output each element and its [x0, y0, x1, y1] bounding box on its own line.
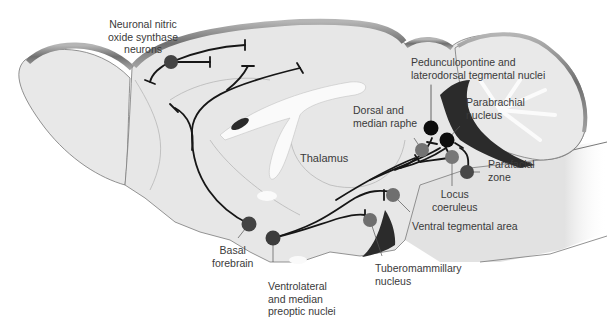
node-locus-coeruleus: [445, 150, 459, 164]
label-parabrachial: Parabrachial nucleus: [466, 96, 525, 121]
label-locus-coeruleus: Locus coeruleus: [432, 188, 478, 213]
label-basal-forebrain: Basal forebrain: [212, 244, 253, 269]
node-vlpo: [266, 231, 281, 246]
white-spot: [257, 191, 277, 201]
node-parafacial: [460, 165, 474, 179]
sleep-wake-circuit-diagram: Neuronal nitric oxide synthase neurons T…: [0, 0, 607, 334]
node-tuberomammillary: [363, 213, 377, 227]
node-raphe: [415, 143, 429, 157]
label-nnos: Neuronal nitric oxide synthase neurons: [108, 18, 178, 56]
node-nnos: [164, 55, 178, 69]
node-ppt-ldt: [424, 121, 439, 136]
olfactory-bulb: [19, 49, 130, 185]
label-tuberomammillary: Tuberomammillary nucleus: [375, 262, 462, 287]
node-parabrachial: [440, 133, 455, 148]
label-vlpo: Ventrolateral and median preoptic nuclei: [268, 280, 336, 318]
node-basal-forebrain: [242, 217, 257, 232]
label-thalamus: Thalamus: [300, 152, 348, 165]
label-vta: Ventral tegmental area: [412, 220, 518, 233]
label-dorsal-raphe: Dorsal and median raphe: [353, 104, 417, 129]
label-parafacial: Parafacial zone: [488, 158, 535, 183]
label-pedunculopontine: Pedunculopontine and laterodorsal tegmen…: [411, 56, 545, 81]
node-vta: [386, 188, 400, 202]
